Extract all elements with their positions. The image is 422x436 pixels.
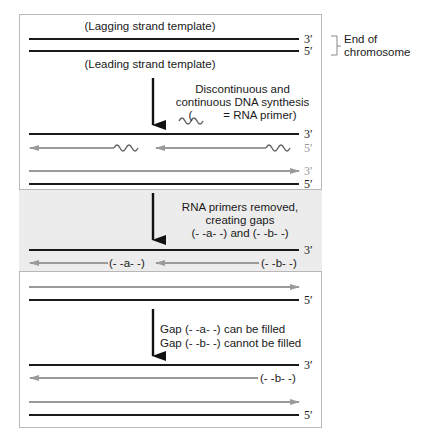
rna-primer-a	[114, 145, 138, 151]
stage2-end-4: 5′	[304, 178, 313, 190]
final-end-3prime: 3′	[304, 359, 313, 371]
step1-description: Discontinuous and continuous DNA synthes…	[160, 83, 325, 122]
stage3-end-3prime: 3′	[304, 244, 313, 256]
step2-description: RNA primers removed, creating gaps (- -a…	[170, 201, 310, 240]
gap-b-label: (- -b- -)	[261, 256, 297, 270]
stage2-end-2: 5′	[304, 142, 313, 154]
end-label-5prime: 5′	[304, 45, 313, 57]
stage2-end-1: 3′	[304, 128, 313, 140]
step3-description: Gap (- -a- -) can be filled Gap (- -b- -…	[160, 322, 301, 350]
gap-a-label: (- -a- -)	[109, 256, 145, 270]
stage3-end-5prime: 5′	[304, 294, 313, 306]
stage2-end-3: 3′	[304, 165, 313, 177]
end-of-chromosome-bracket	[331, 36, 341, 55]
final-end-5prime: 5′	[304, 409, 313, 421]
lagging-template-label: (Lagging strand template)	[70, 19, 230, 33]
end-of-chromosome-label: End of chromosome	[344, 33, 410, 59]
rna-primer-b	[266, 145, 290, 151]
final-gap-b-label: (- -b- -)	[260, 371, 296, 385]
leading-template-label: (Leading strand template)	[70, 57, 230, 71]
